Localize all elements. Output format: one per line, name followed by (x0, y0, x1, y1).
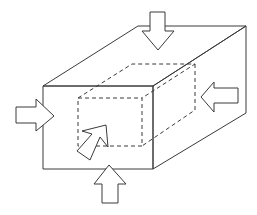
outer-top-face (43, 26, 246, 86)
arrow-diagonal-icon (77, 125, 108, 160)
diagram-canvas (0, 0, 257, 215)
pressure-arrows (16, 12, 238, 203)
arrow-up-icon (94, 165, 126, 203)
arrow-down-icon (142, 12, 174, 50)
pressure-block-diagram (0, 0, 257, 215)
inner-top-edges (78, 64, 195, 98)
arrow-left-icon (201, 82, 238, 112)
arrow-right-icon (16, 99, 54, 131)
